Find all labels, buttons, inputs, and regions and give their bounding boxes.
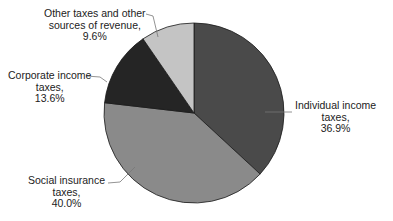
- label-line: 13.6%: [8, 93, 91, 105]
- label-line: 40.0%: [28, 198, 105, 210]
- label-line: Social insurance: [28, 175, 105, 187]
- label-line: Individual income: [295, 100, 376, 112]
- label-line: 36.9%: [295, 123, 376, 135]
- label-other-taxes: Other taxes and other sources of revenue…: [44, 8, 146, 43]
- label-line: 9.6%: [44, 31, 146, 43]
- pie-slices: [104, 23, 284, 203]
- label-line: Corporate income: [8, 70, 91, 82]
- label-social-insurance-taxes: Social insurance taxes, 40.0%: [28, 175, 105, 210]
- label-line: Other taxes and other: [44, 8, 146, 20]
- label-corporate-income-taxes: Corporate income taxes, 13.6%: [8, 70, 91, 105]
- label-individual-income-taxes: Individual income taxes, 36.9%: [295, 100, 376, 135]
